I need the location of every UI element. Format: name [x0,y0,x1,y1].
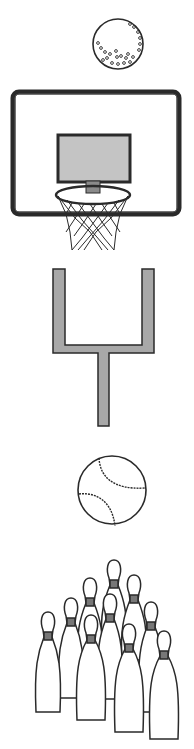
bowling-pins-icon [35,560,178,739]
golf-ball-icon [93,19,143,69]
basketball-hoop-icon [13,92,179,250]
sports-clipart [0,0,194,749]
football-goalpost-icon [53,269,154,426]
baseball-icon [78,456,146,526]
